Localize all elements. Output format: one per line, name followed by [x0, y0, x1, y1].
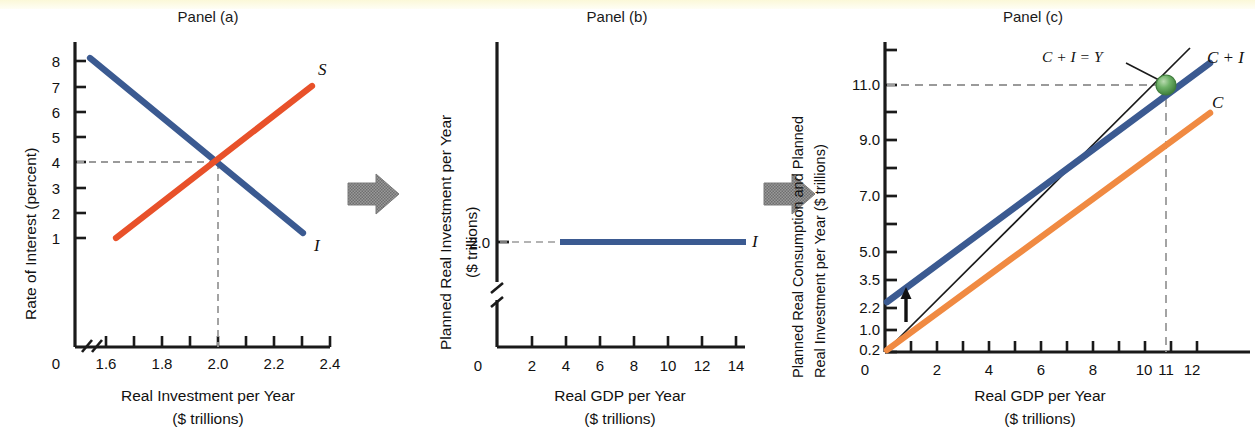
- panel-c-y-tick-label-11: 11.0: [824, 76, 880, 93]
- panel-a-y-tick-label-7: 7: [28, 79, 60, 96]
- figure-stage: Panel (a) Panel (b) Panel (c) Rate of In…: [0, 0, 1255, 441]
- panel-c-y-tick-label-0-2: 0.2: [824, 341, 880, 358]
- panel-c-x-axis-label-line1: Real GDP per Year: [870, 387, 1210, 405]
- panel-a-y-tick-label-2: 2: [28, 205, 60, 222]
- panel-c-x-tick-label-8: 8: [1076, 361, 1110, 378]
- panel-c-title: Panel (c): [1003, 8, 1063, 25]
- panel-c-y-tick-label-2-2: 2.2: [824, 299, 880, 316]
- panel-b-x-axis-label-line2: ($ trillions): [450, 410, 790, 428]
- panel-b-graph: [491, 42, 746, 347]
- panel-c-x-tick-label-2: 2: [920, 361, 954, 378]
- panel-c-y-axis-label-line1: Planned Real Consumption and Planned: [790, 116, 806, 378]
- panel-b-x-axis-label-line1: Real GDP per Year: [450, 387, 790, 405]
- panel-c-y-ticks: [885, 50, 897, 352]
- panel-c-x-ticks: [911, 341, 1197, 352]
- panel-c-y-tick-label-5: 5.0: [824, 243, 880, 260]
- panel-c-y-tick-label-7: 7.0: [824, 187, 880, 204]
- panel-a-y-tick-label-8: 8: [28, 53, 60, 70]
- panel-b-origin-label: 0: [466, 357, 490, 374]
- panel-b-x-tick-label-12: 12: [684, 357, 720, 374]
- panel-c-x-tick-label-4: 4: [972, 361, 1006, 378]
- panel-a-x-tick-label-2: 1.8: [142, 355, 182, 372]
- panel-a-y-tick-label-1: 1: [28, 230, 60, 247]
- arrow-a-to-b: [348, 174, 399, 214]
- figure-svg: [0, 0, 1255, 441]
- panel-a-x-tick-label-4: 2.2: [254, 355, 294, 372]
- panel-a-saving-curve-label: S: [318, 60, 327, 80]
- panel-a-y-ticks: [75, 61, 86, 238]
- panel-a-x-tick-label-3: 2.0: [198, 355, 238, 372]
- panel-b-x-ticks: [532, 336, 736, 347]
- panel-b-x-tick-label-8: 8: [617, 357, 651, 374]
- panel-c-graph: [885, 42, 1250, 352]
- panel-c-consumption-plus-investment-curve: [887, 63, 1210, 302]
- panel-c-x-axis-label-line2: ($ trillions): [870, 410, 1210, 428]
- panel-c-x-tick-label-12: 12: [1179, 361, 1205, 378]
- panel-c-y-tick-label-9: 9.0: [824, 131, 880, 148]
- panel-a-x-tick-label-1: 1.6: [86, 355, 126, 372]
- panel-c-y-tick-label-1-0: 1.0: [824, 321, 880, 338]
- panel-a-origin-label: 0: [44, 355, 68, 372]
- panel-b-investment-curve-label: I: [752, 232, 758, 252]
- panel-c-ci-curve-label: C + I: [1207, 48, 1244, 68]
- panel-c-origin-label: 0: [853, 361, 877, 378]
- panel-c-consumption-curve: [887, 113, 1210, 350]
- panel-c-x-tick-label-11: 11: [1153, 361, 1179, 378]
- panel-a-graph: [75, 42, 330, 352]
- panel-a-title: Panel (a): [178, 8, 239, 25]
- panel-a-y-tick-label-5: 5: [28, 129, 60, 146]
- panel-b-x-tick-label-10: 10: [650, 357, 686, 374]
- panel-a-x-axis-label-line1: Real Investment per Year: [38, 387, 378, 405]
- panel-c-equilibrium-label: C + I = Y: [1042, 48, 1103, 66]
- panel-b-axis-break: [491, 283, 503, 307]
- panel-b-title: Panel (b): [587, 8, 648, 25]
- panel-c-x-tick-label-6: 6: [1024, 361, 1058, 378]
- panel-a-investment-curve-label: I: [314, 236, 320, 256]
- panel-a-y-tick-label-3: 3: [28, 180, 60, 197]
- panel-a-y-tick-label-4: 4: [28, 154, 60, 171]
- panel-c-45-degree-line: [887, 48, 1190, 350]
- panel-b-y-tick-label-2: 2.0: [448, 234, 490, 251]
- panel-b-x-tick-label-2: 2: [515, 357, 549, 374]
- panel-b-x-tick-label-4: 4: [549, 357, 583, 374]
- panel-a-x-axis-label-line2: ($ trillions): [38, 410, 378, 428]
- panel-c-equilibrium-dot: [1156, 75, 1176, 95]
- panel-b-x-tick-label-14: 14: [718, 357, 754, 374]
- panel-a-y-tick-label-6: 6: [28, 104, 60, 121]
- panel-a-investment-curve: [90, 58, 303, 233]
- panel-a-x-tick-label-5: 2.4: [310, 355, 350, 372]
- panel-b-x-tick-label-6: 6: [583, 357, 617, 374]
- panel-c-consumption-curve-label: C: [1212, 93, 1223, 113]
- panel-c-equilibrium-leader: [1126, 63, 1159, 80]
- panel-c-y-tick-label-3-5: 3.5: [824, 271, 880, 288]
- panel-b-y-axis-label-line1: Planned Real Investment per Year: [437, 115, 455, 350]
